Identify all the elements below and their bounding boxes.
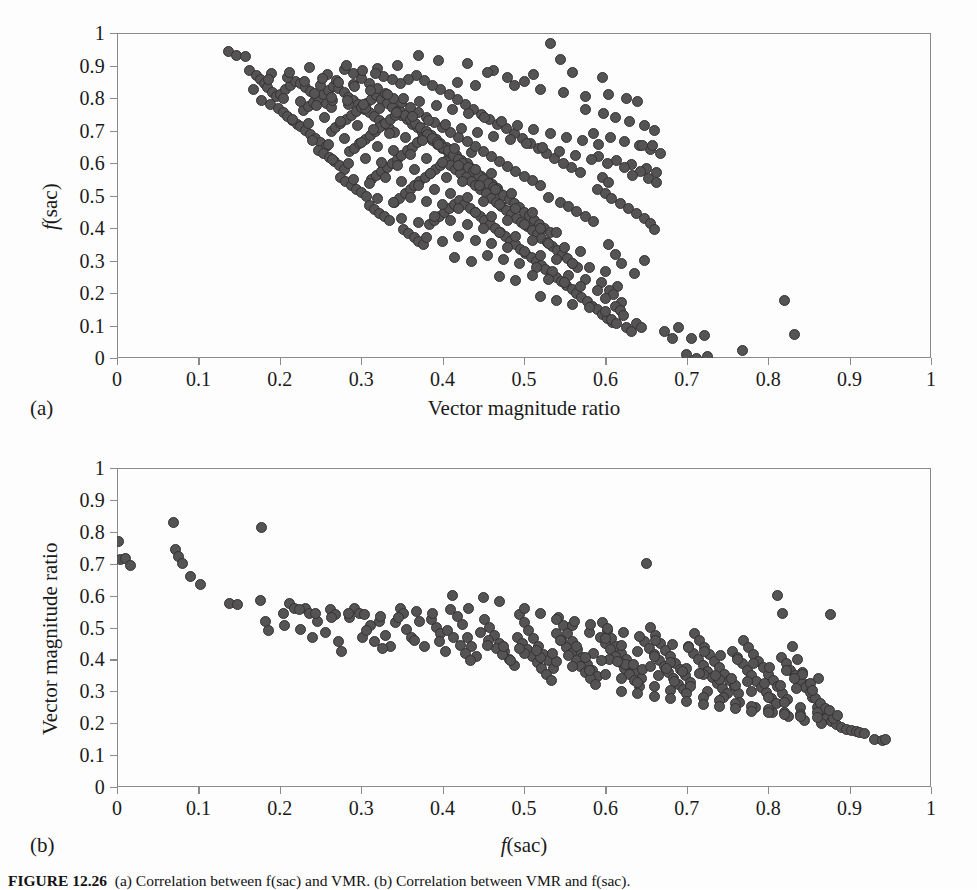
scatter-point — [506, 188, 517, 199]
x-tick-label: 0.1 — [186, 797, 211, 820]
scatter-point — [616, 640, 627, 651]
x-axis-b: 00.10.20.30.40.50.60.70.80.91 — [117, 787, 931, 796]
x-tick-label: 1 — [926, 797, 936, 820]
scatter-point — [413, 180, 424, 191]
y-tick — [110, 33, 117, 34]
scatter-point — [400, 132, 411, 143]
x-tick — [117, 787, 118, 794]
scatter-point — [535, 84, 546, 95]
y-tick-label: 0.6 — [79, 584, 105, 607]
scatter-point — [577, 135, 588, 146]
scatter-point — [636, 322, 647, 333]
scatter-point — [535, 608, 546, 619]
scatter-point — [545, 38, 556, 49]
scatter-point — [309, 88, 320, 99]
x-tick — [524, 787, 525, 794]
scatter-point — [519, 219, 530, 230]
plot-area-b: 00.10.20.30.40.50.60.70.80.91 00.10.20.3… — [117, 468, 931, 787]
scatter-point — [561, 132, 572, 143]
scatter-point — [649, 224, 660, 235]
scatter-point — [319, 112, 330, 123]
scatter-point — [263, 74, 274, 85]
scatter-point — [498, 254, 509, 265]
y-tick-label: 0.9 — [79, 488, 105, 511]
scatter-point — [575, 167, 586, 178]
scatter-point — [440, 646, 451, 657]
scatter-point — [527, 270, 538, 281]
scatter-point — [681, 696, 692, 707]
scatter-point — [621, 93, 632, 104]
scatter-point — [746, 686, 757, 697]
scatter-point — [374, 103, 385, 114]
scatter-point — [360, 153, 371, 164]
scatter-point — [474, 180, 485, 191]
y-tick-label: 1 — [95, 22, 105, 45]
x-tick-label: 0.5 — [512, 797, 537, 820]
scatter-point — [494, 271, 505, 282]
y-tick — [110, 196, 117, 197]
scatter-point — [486, 168, 497, 179]
scatter-point — [359, 609, 370, 620]
scatter-point — [407, 111, 418, 122]
panel-label-b: (b) — [30, 833, 55, 858]
scatter-point — [775, 680, 786, 691]
scatter-point — [496, 116, 507, 127]
scatter-point — [453, 231, 464, 242]
x-tick — [198, 787, 199, 794]
scatter-point — [610, 249, 621, 260]
y-tick — [110, 358, 117, 359]
scatter-point — [763, 692, 774, 703]
scatter-point — [263, 625, 274, 636]
scatter-point — [414, 616, 425, 627]
scatter-point — [482, 67, 493, 78]
y-tick-label: 0.5 — [79, 616, 105, 639]
scatter-point — [777, 608, 788, 619]
scatter-point — [519, 246, 530, 257]
scatter-point — [618, 627, 629, 638]
scatter-point — [535, 291, 546, 302]
scatter-point — [673, 322, 684, 333]
scatter-point — [702, 351, 713, 358]
scatter-point — [486, 211, 497, 222]
scatter-point — [391, 107, 402, 118]
y-tick-label: 0.6 — [79, 152, 105, 175]
scatter-point — [348, 174, 359, 185]
scatter-point — [478, 592, 489, 603]
scatter-point — [382, 89, 393, 100]
scatter-point — [628, 659, 639, 670]
scatter-point — [470, 207, 481, 218]
scatter-point — [279, 620, 290, 631]
scatter-point — [545, 128, 556, 139]
y-tick — [110, 293, 117, 294]
scatter-point — [232, 599, 243, 610]
scatter-point — [602, 158, 613, 169]
scatter-point — [405, 149, 416, 160]
scatter-point — [441, 172, 452, 183]
y-tick-label: 0.2 — [79, 282, 105, 305]
y-tick — [110, 163, 117, 164]
scatter-point — [792, 654, 803, 665]
scatter-point — [462, 192, 473, 203]
x-tick-label: 0.9 — [837, 797, 862, 820]
x-axis-title-a: Vector magnitude ratio — [117, 396, 931, 421]
scatter-point — [880, 734, 891, 745]
scatter-point — [447, 104, 458, 115]
y-tick-label: 0.4 — [79, 648, 105, 671]
scatter-point — [629, 268, 640, 279]
scatter-point — [456, 123, 467, 134]
y-tick — [110, 66, 117, 67]
scatter-point — [632, 96, 643, 107]
scatter-point — [554, 146, 565, 157]
x-tick-label: 0.6 — [593, 797, 618, 820]
scatter-point — [694, 668, 705, 679]
scatter-point — [764, 662, 775, 673]
scatter-point — [575, 246, 586, 257]
y-tick-label: 0 — [95, 347, 105, 370]
scatter-point — [632, 646, 643, 657]
x-tick — [605, 787, 606, 794]
scatter-point — [649, 691, 660, 702]
scatter-point — [514, 258, 525, 269]
scatter-point — [651, 177, 662, 188]
scatter-point — [610, 112, 621, 123]
scatter-point — [505, 134, 516, 145]
